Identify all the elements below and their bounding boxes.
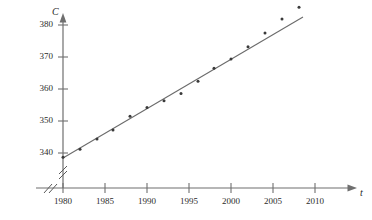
x-tick-label-2000: 2000 xyxy=(212,196,250,206)
trend-line xyxy=(63,17,303,158)
data-point xyxy=(163,99,166,102)
scatter-plot xyxy=(0,0,372,220)
x-tick-label-2005: 2005 xyxy=(254,196,292,206)
x-axis-label: t xyxy=(360,187,363,198)
y-axis-label: C xyxy=(52,6,59,17)
data-points xyxy=(62,6,301,159)
x-tick-label-1980: 1980 xyxy=(44,196,82,206)
x-tick-label-1995: 1995 xyxy=(170,196,208,206)
chart-container: C t 340 350 360 370 380 1980 1985 1990 1… xyxy=(0,0,372,220)
data-point xyxy=(298,6,301,9)
data-point xyxy=(264,32,267,35)
x-tick-label-1990: 1990 xyxy=(128,196,166,206)
y-axis xyxy=(60,13,67,188)
y-tick-label-340: 340 xyxy=(24,147,53,157)
data-point xyxy=(247,45,250,48)
data-point xyxy=(96,138,99,141)
x-tick-label-2010: 2010 xyxy=(296,196,334,206)
y-tick-label-360: 360 xyxy=(24,83,53,93)
y-tick-label-370: 370 xyxy=(24,51,53,61)
x-axis xyxy=(36,185,357,192)
data-point xyxy=(112,129,115,132)
data-point xyxy=(146,106,149,109)
data-point xyxy=(213,67,216,70)
data-point xyxy=(197,80,200,83)
data-point xyxy=(129,115,132,118)
x-tick-label-1985: 1985 xyxy=(86,196,124,206)
y-tick-label-350: 350 xyxy=(24,115,53,125)
data-point xyxy=(62,156,65,159)
data-point xyxy=(180,92,183,95)
data-point xyxy=(230,57,233,60)
y-tick-label-380: 380 xyxy=(24,19,53,29)
data-point xyxy=(79,148,82,151)
data-point xyxy=(281,18,284,21)
